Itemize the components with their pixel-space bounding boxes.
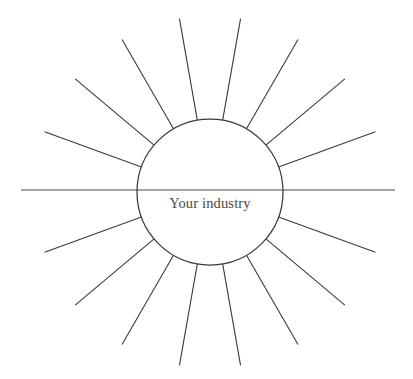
ray-13[interactable]	[179, 264, 197, 365]
diagram-canvas: Your industry	[0, 0, 413, 379]
ray-1[interactable]	[279, 132, 376, 167]
ray-15[interactable]	[247, 255, 299, 344]
ray-2[interactable]	[266, 79, 345, 145]
radial-diagram: Your industry	[0, 0, 413, 379]
ray-8[interactable]	[45, 132, 142, 167]
ray-6[interactable]	[122, 40, 174, 129]
center-circle[interactable]	[137, 119, 283, 265]
center-label: Your industry	[169, 195, 251, 211]
ray-11[interactable]	[75, 239, 154, 305]
ray-14[interactable]	[223, 264, 241, 365]
ray-12[interactable]	[122, 255, 174, 344]
ray-16[interactable]	[266, 239, 345, 305]
ray-17[interactable]	[279, 217, 376, 252]
ray-4[interactable]	[223, 19, 241, 120]
ray-5[interactable]	[179, 19, 197, 120]
ray-10[interactable]	[45, 217, 142, 252]
ray-3[interactable]	[247, 40, 299, 129]
ray-7[interactable]	[75, 79, 154, 145]
